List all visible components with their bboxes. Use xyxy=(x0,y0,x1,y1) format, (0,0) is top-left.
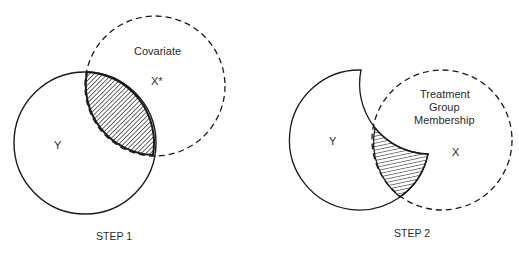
step2-caption: STEP 2 xyxy=(394,227,430,239)
treatment-label-line1: Treatment xyxy=(420,88,470,100)
shared-variance-hatched-region xyxy=(86,72,154,155)
step2-panel: Y Treatment Group Membership X STEP 2 xyxy=(289,70,512,239)
treatment-label-line3: Membership xyxy=(414,114,475,126)
step1-panel: Y Covariate X* STEP 1 xyxy=(14,16,225,242)
venn-diagram-figure: Y Covariate X* STEP 1 Y Treatment Group … xyxy=(0,0,519,253)
x-star-label: X* xyxy=(151,75,163,87)
y-label: Y xyxy=(329,135,337,147)
x-label: X xyxy=(452,146,460,158)
step1-caption: STEP 1 xyxy=(96,230,132,242)
treatment-label-line2: Group xyxy=(429,101,460,113)
y-label: Y xyxy=(54,139,62,151)
covariate-label: Covariate xyxy=(134,45,181,57)
treatment-effect-hatched-region xyxy=(374,128,428,197)
